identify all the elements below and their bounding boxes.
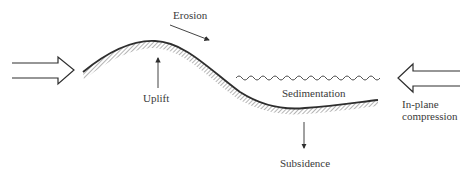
sea-level-wave	[236, 76, 380, 80]
sedimentation-label: Sedimentation	[282, 87, 346, 99]
subsidence-label: Subsidence	[280, 157, 330, 169]
lithosphere-flexure-diagram: Erosion Uplift Sedimentation Subsidence …	[0, 0, 476, 174]
uplift-label: Uplift	[143, 92, 169, 104]
left-compression-arrow-icon	[12, 57, 74, 84]
flexure-hatching	[83, 41, 378, 115]
erosion-label: Erosion	[173, 9, 208, 21]
compression-label-line2: compression	[402, 110, 458, 122]
erosion-arrow-icon	[170, 25, 209, 40]
compression-label-line1: In-plane	[402, 98, 439, 110]
right-compression-arrow-icon	[398, 64, 460, 92]
